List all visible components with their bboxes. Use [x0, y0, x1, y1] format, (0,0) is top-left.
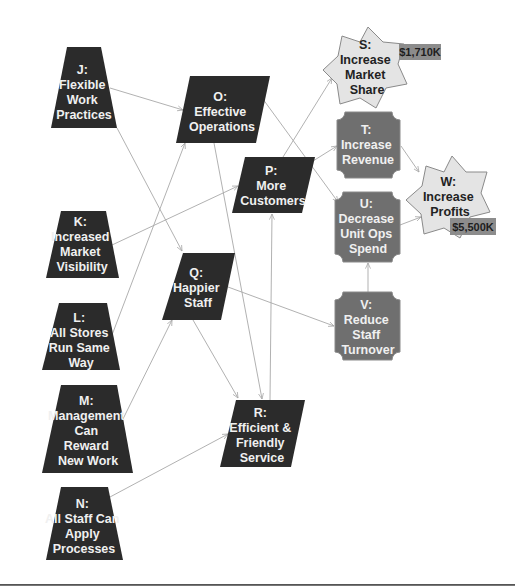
edge-P-T [313, 146, 337, 161]
node-M-label-3: Reward [64, 439, 109, 453]
node-W-label-2: Profits [430, 205, 470, 219]
node-S-badge-value: $1,710K [399, 46, 441, 58]
node-W[interactable]: W: Increase Profits $5,500K [406, 156, 496, 238]
node-T[interactable]: T: Increase Revenue [337, 112, 400, 178]
node-L-label-1: All Stores [50, 326, 108, 340]
node-M-label-1: Management [48, 409, 125, 423]
edge-Q-V [228, 287, 334, 326]
node-L-label-3: Way [68, 356, 93, 370]
node-O[interactable]: O: Effective Operations [176, 76, 270, 143]
node-P-label-0: P: [265, 164, 278, 178]
node-Q-label-2: Staff [184, 296, 213, 310]
node-T-label-1: Increase [341, 138, 392, 152]
node-K-label-3: Visibility [56, 260, 107, 274]
edge-K-P [112, 186, 238, 245]
node-Q-label-0: Q: [189, 266, 203, 280]
node-L-label-0: L: [73, 311, 85, 325]
node-J[interactable]: J: Flexible Work Practices [51, 47, 117, 128]
node-K-label-2: Market [60, 245, 101, 259]
node-V[interactable]: V: Reduce Staff Turnover [335, 292, 400, 360]
node-P-label-1: More [256, 179, 286, 193]
node-W-label-0: W: [440, 175, 456, 189]
node-N-label-2: Apply [65, 527, 100, 541]
node-W-label-1: Increase [423, 190, 474, 204]
node-T-label-0: T: [361, 123, 371, 137]
node-V-label-3: Turnover [341, 343, 394, 357]
node-T-label-2: Revenue [342, 153, 394, 167]
node-O-label-0: O: [213, 90, 227, 104]
edge-R-P [270, 214, 272, 400]
node-O-label-1: Effective [194, 105, 246, 119]
edge-M-Q [121, 320, 172, 423]
node-V-label-0: V: [360, 298, 372, 312]
node-R-label-2: Friendly [236, 436, 285, 450]
node-M-label-2: Can [74, 424, 98, 438]
edge-P-S [283, 78, 332, 157]
node-R-label-3: Service [240, 451, 285, 465]
node-K[interactable]: K: Increased Market Visibility [46, 211, 119, 278]
node-U-label-2: Unit Ops [340, 227, 392, 241]
node-O-label-2: Operations [189, 120, 255, 134]
node-M-label-0: M: [79, 394, 94, 408]
node-V-label-2: Staff [352, 328, 381, 342]
node-M[interactable]: M: Management Can Reward New Work [42, 385, 133, 473]
node-N-label-1: All Staff Can [45, 512, 119, 526]
node-N-label-0: N: [76, 497, 89, 511]
benefits-dependency-diagram: J: Flexible Work Practices K: Increased … [0, 0, 521, 586]
node-S-label-2: Market [345, 68, 386, 82]
node-J-label-1: Flexible [59, 78, 106, 92]
node-S-label-3: Share [350, 83, 385, 97]
node-P[interactable]: P: More Customers [232, 157, 315, 213]
node-J-label-0: J: [77, 63, 88, 77]
node-R-label-0: R: [254, 406, 267, 420]
node-N-label-3: Processes [53, 542, 116, 556]
edge-J-O [110, 88, 183, 110]
node-S-label-1: Increase [340, 53, 391, 67]
node-M-label-4: New Work [58, 454, 118, 468]
node-R-label-1: Efficient & [229, 421, 291, 435]
node-N[interactable]: N: All Staff Can Apply Processes [45, 487, 123, 560]
node-S[interactable]: S: Increase Market Share $1,710K [323, 27, 441, 108]
edge-Q-R [193, 320, 238, 398]
node-R[interactable]: R: Efficient & Friendly Service [220, 400, 305, 467]
node-S-label-0: S: [359, 38, 372, 52]
node-L[interactable]: L: All Stores Run Same Way [42, 303, 120, 370]
edge-T-W [401, 146, 419, 172]
edge-U-W [400, 217, 421, 225]
node-L-label-2: Run Same [49, 341, 110, 355]
node-P-label-2: Customers [240, 194, 305, 208]
edge-J-Q [117, 128, 182, 251]
node-K-label-1: Increased [51, 230, 109, 244]
node-U-label-1: Decrease [338, 212, 394, 226]
node-W-badge-value: $5,500K [452, 221, 494, 233]
node-J-label-2: Work [67, 93, 98, 107]
node-K-label-0: K: [74, 215, 87, 229]
node-J-label-3: Practices [56, 108, 112, 122]
node-U-label-0: U: [360, 197, 373, 211]
node-Q[interactable]: Q: Happier Staff [162, 253, 235, 320]
node-Q-label-1: Happier [173, 281, 220, 295]
node-U-label-3: Spend [349, 242, 387, 256]
node-U[interactable]: U: Decrease Unit Ops Spend [335, 192, 400, 262]
node-V-label-1: Reduce [344, 313, 389, 327]
